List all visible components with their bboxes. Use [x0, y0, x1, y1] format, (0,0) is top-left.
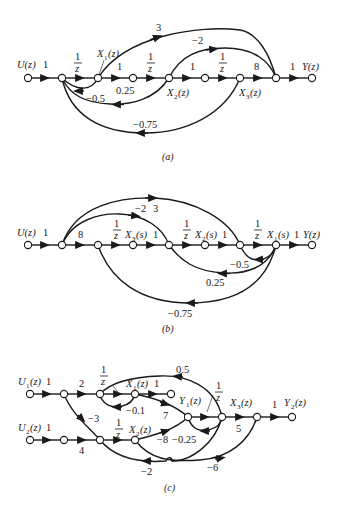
gain-label-neg3: −3 — [88, 413, 99, 424]
svg-text:1: 1 — [255, 218, 260, 229]
gain-label: 1 — [272, 399, 277, 410]
gain-label-neg075: −0.75 — [133, 119, 157, 130]
panel-c: U 1 (z) 1 U 2 (z) 1 2 1 z X 1 (z) 1 Y 1 … — [18, 364, 307, 494]
state-label-x2-b: X 2 (s) — [194, 229, 218, 243]
svg-text:1: 1 — [75, 51, 80, 62]
svg-text:Y: Y — [179, 395, 186, 406]
gain-label-025: 0.25 — [116, 85, 134, 96]
svg-text:X: X — [194, 229, 202, 240]
svg-text:(z): (z) — [241, 397, 253, 409]
gain-label-3: 3 — [153, 203, 158, 214]
state-label-x3-c: X 3 (z) — [229, 397, 253, 411]
svg-text:X: X — [229, 397, 237, 408]
svg-text:1: 1 — [116, 417, 121, 428]
gain-label-7: 7 — [163, 410, 168, 421]
gain-label-025: 0.25 — [206, 277, 224, 288]
gain-label-neg05: −0.5 — [86, 93, 105, 104]
gain-label-2: 2 — [79, 378, 84, 389]
svg-text:(z): (z) — [108, 48, 120, 60]
svg-text:1: 1 — [101, 364, 106, 375]
gain-label-neg2: −2 — [141, 466, 152, 477]
state-label-x2-a: X 2 (z) — [166, 87, 190, 101]
svg-text:(z): (z) — [295, 397, 307, 409]
state-label-x1-c: X 1 (z) 1 — [125, 378, 159, 392]
panel-b: U(z) 1 8 −2 3 1 z X 3 (s) 1 1 z X 2 (s) … — [17, 198, 320, 335]
gain-label-5: 5 — [236, 423, 241, 434]
gain-1-over-z: 1 z — [147, 51, 155, 74]
svg-text:1: 1 — [184, 218, 189, 229]
svg-text:1: 1 — [154, 378, 159, 389]
svg-text:(z): (z) — [178, 87, 190, 99]
gain-label: 1 — [153, 229, 158, 240]
svg-text:(z): (z) — [30, 422, 42, 434]
svg-text:1: 1 — [216, 380, 221, 391]
svg-text:(z): (z) — [137, 378, 149, 390]
gain-label-4: 4 — [79, 445, 85, 456]
input-label-u2: U 2 (z) 1 — [18, 422, 51, 436]
gain-1-over-z: 1 z — [183, 218, 191, 241]
gain-label: 1 — [43, 59, 48, 70]
gain-label-neg025: −0.25 — [172, 434, 196, 445]
gain-label: 1 — [290, 61, 295, 72]
svg-text:z: z — [147, 63, 152, 74]
svg-text:z: z — [219, 63, 224, 74]
gain-1-over-z: 1 z — [100, 364, 108, 387]
panel-a: U(z) 1 1 z X 1 (z) 1 1 z 3 −2 1 1 z 8 1 … — [17, 22, 319, 163]
gain-1-over-z: 1 z — [113, 218, 121, 241]
gain-label: 1 — [294, 229, 299, 240]
svg-text:z: z — [100, 376, 105, 387]
svg-text:1: 1 — [148, 51, 153, 62]
branch-b-neg05 — [240, 245, 276, 260]
input-label-b: U(z) — [17, 227, 36, 239]
svg-text:X: X — [166, 87, 174, 98]
svg-text:X: X — [238, 87, 246, 98]
signal-flow-graph-figure: U(z) 1 1 z X 1 (z) 1 1 z 3 −2 1 1 z 8 1 … — [0, 0, 339, 512]
caption-c: (c) — [164, 482, 176, 494]
gain-label-neg01: −0.1 — [126, 405, 145, 416]
gain-1-over-z: 1 z — [215, 380, 223, 403]
svg-text:(z): (z) — [30, 376, 42, 388]
svg-text:(s): (s) — [136, 229, 148, 241]
branch-c-neg025 — [188, 417, 222, 430]
output-label-a: Y(z) — [302, 61, 319, 73]
gain-1-over-z: 1 z — [74, 51, 82, 74]
gain-label-3: 3 — [156, 22, 161, 33]
svg-text:z: z — [183, 230, 188, 241]
gain-label-neg05: −0.5 — [230, 259, 249, 270]
input-label-a: U(z) — [17, 59, 36, 71]
gain-label-neg2: −2 — [135, 203, 146, 214]
gain-label: 1 — [43, 227, 48, 238]
gain-label-neg2: −2 — [192, 35, 203, 46]
svg-text:z: z — [215, 392, 220, 403]
caption-a: (a) — [162, 151, 174, 163]
output-label-y2: Y 2 (z) — [284, 397, 307, 411]
state-label-x3-a: X 3 (z) — [238, 87, 262, 101]
gain-label: 1 — [222, 229, 227, 240]
gain-1-over-z: 1 z — [254, 218, 262, 241]
gain-label: 1 — [117, 61, 122, 72]
gain-label: 1 — [190, 61, 195, 72]
svg-text:X: X — [96, 48, 104, 59]
gain-label-8: 8 — [254, 61, 259, 72]
gain-label-neg075: −0.75 — [168, 308, 192, 319]
branch-b-neg075 — [98, 245, 276, 303]
gain-label-neg6: −6 — [207, 462, 218, 473]
gain-label-05: 0.5 — [176, 364, 189, 375]
gain-1-over-z: 1 z — [115, 417, 123, 440]
branch-c-05 — [100, 376, 222, 417]
svg-text:Y: Y — [284, 397, 291, 408]
svg-text:(z): (z) — [250, 87, 262, 99]
svg-text:X: X — [266, 229, 274, 240]
output-label-b: Y(z) — [303, 229, 320, 241]
svg-text:(z): (z) — [140, 424, 152, 436]
svg-text:(s): (s) — [206, 229, 218, 241]
output-label-y1: Y 1 (z) — [179, 395, 202, 409]
svg-text:(s): (s) — [278, 229, 290, 241]
gain-label-8: 8 — [78, 229, 83, 240]
state-label-x3-b: X 3 (s) — [124, 229, 148, 243]
svg-text:z: z — [115, 429, 120, 440]
svg-text:z: z — [254, 230, 259, 241]
svg-text:z: z — [113, 230, 118, 241]
caption-b: (b) — [162, 323, 174, 335]
svg-text:X: X — [128, 424, 136, 435]
